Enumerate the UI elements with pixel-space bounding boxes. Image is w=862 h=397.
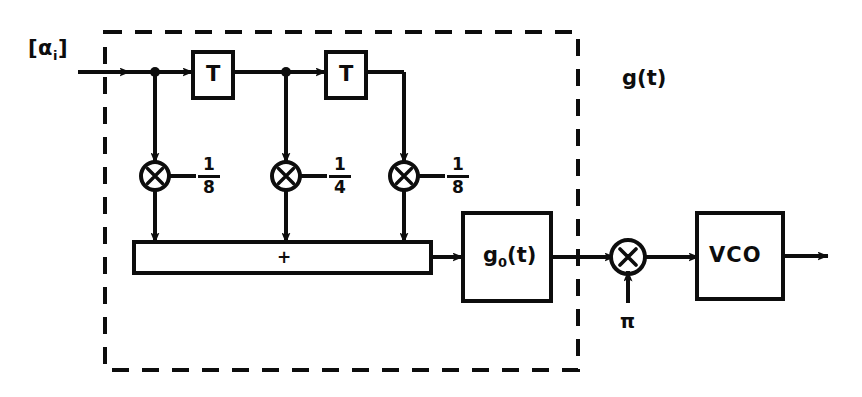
summing-junction-plus-label: + [277, 249, 291, 266]
vco-block-label: VCO [709, 245, 762, 266]
coefficient-0-denominator: 8 [196, 179, 222, 197]
input-signal-label: [αi] [28, 38, 68, 62]
coefficient-1-denominator: 4 [327, 179, 353, 197]
diagram-vector-layer [0, 0, 862, 397]
delay-block-1-label: T [206, 64, 221, 85]
diagram-canvas: [αi] g(t) T T 1 8 1 4 1 8 + g0(t) π VCO [0, 0, 862, 397]
coefficient-label-2: 1 8 [445, 156, 471, 196]
pulse-filter-label: g0(t) [483, 245, 536, 269]
subsystem-label: g(t) [622, 68, 666, 89]
coefficient-label-0: 1 8 [196, 156, 222, 196]
pulse-filter-subscript: 0 [498, 255, 507, 270]
delay-block-2-label: T [339, 64, 354, 85]
coefficient-1-numerator: 1 [327, 156, 353, 174]
coefficient-0-numerator: 1 [196, 156, 222, 174]
coefficient-2-denominator: 8 [445, 179, 471, 197]
coefficient-2-numerator: 1 [445, 156, 471, 174]
phase-input-label: π [620, 312, 635, 331]
coefficient-label-1: 1 4 [327, 156, 353, 196]
